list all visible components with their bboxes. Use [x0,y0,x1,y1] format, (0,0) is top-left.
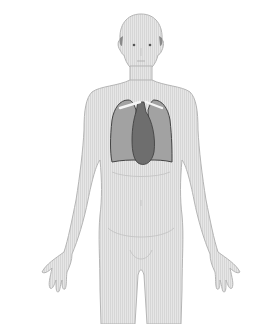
head [118,14,163,73]
anatomy-figure [0,0,267,324]
body-illustration [0,0,267,324]
left-eye [133,44,136,47]
right-eye [149,44,152,47]
body-silhouette [42,14,240,324]
